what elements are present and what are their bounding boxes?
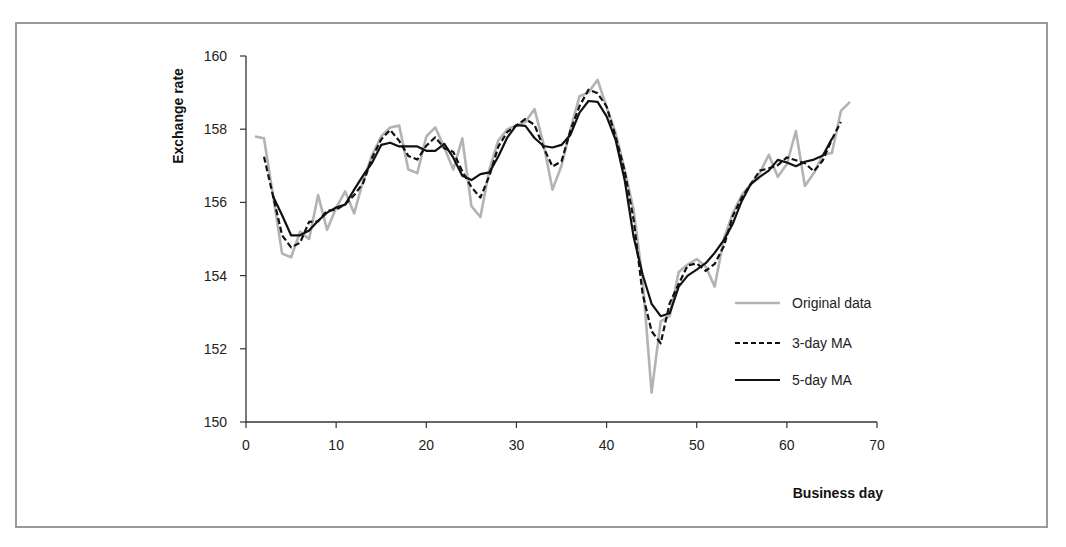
legend-label-original: Original data [792, 295, 872, 311]
y-ticks: 150152154156158160 [204, 48, 246, 430]
axes [246, 56, 877, 422]
x-tick-label: 30 [509, 437, 525, 453]
y-tick-label: 150 [204, 414, 228, 430]
x-ticks: 010203040506070 [242, 422, 885, 453]
series-line-3-day-ma [264, 90, 841, 344]
x-tick-label: 60 [779, 437, 795, 453]
legend: Original data 3-day MA 5-day MA [735, 295, 872, 388]
x-axis-title: Business day [793, 485, 883, 501]
y-tick-label: 158 [204, 121, 228, 137]
line-chart: 150152154156158160 010203040506070 Excha… [0, 0, 1066, 547]
y-tick-label: 160 [204, 48, 228, 64]
legend-label-5day: 5-day MA [792, 372, 853, 388]
x-tick-label: 10 [328, 437, 344, 453]
x-tick-label: 40 [599, 437, 615, 453]
y-tick-label: 152 [204, 341, 228, 357]
series-lines [255, 80, 850, 393]
y-tick-label: 156 [204, 194, 228, 210]
x-tick-label: 0 [242, 437, 250, 453]
series-line-original-data [255, 80, 850, 393]
legend-item-3day: 3-day MA [735, 335, 853, 351]
legend-label-3day: 3-day MA [792, 335, 853, 351]
y-axis-title: Exchange rate [170, 68, 186, 164]
x-tick-label: 20 [418, 437, 434, 453]
y-tick-label: 154 [204, 268, 228, 284]
legend-item-5day: 5-day MA [735, 372, 853, 388]
x-tick-label: 50 [689, 437, 705, 453]
x-tick-label: 70 [869, 437, 885, 453]
legend-item-original: Original data [735, 295, 872, 311]
